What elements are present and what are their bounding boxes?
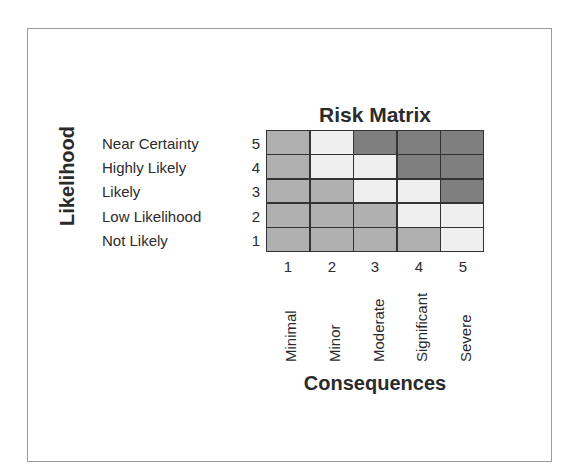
matrix-cell-medium <box>441 228 483 251</box>
matrix-cell-high <box>441 180 483 203</box>
matrix-cell-low <box>267 155 309 178</box>
matrix-cell-low <box>311 180 353 203</box>
matrix-cell-low <box>267 131 309 154</box>
row-label-1: Not Likely <box>102 232 168 249</box>
matrix-cell-medium <box>441 204 483 227</box>
col-label-moderate: Moderate <box>370 299 387 362</box>
matrix-cell-low <box>267 204 309 227</box>
matrix-cell-high <box>441 131 483 154</box>
col-number-4: 4 <box>409 258 429 275</box>
matrix-cell-medium <box>398 180 440 203</box>
row-number-2: 2 <box>250 208 262 225</box>
matrix-cell-low <box>311 228 353 251</box>
row-number-3: 3 <box>250 183 262 200</box>
row-label-3: Likely <box>102 183 140 200</box>
matrix-cell-low <box>267 180 309 203</box>
matrix-cell-low <box>398 228 440 251</box>
row-label-2: Low Likelihood <box>102 208 201 225</box>
matrix-cell-low <box>267 228 309 251</box>
col-number-5: 5 <box>453 258 473 275</box>
y-axis-label: Likelihood <box>56 116 79 236</box>
row-number-5: 5 <box>250 135 262 152</box>
risk-matrix-grid <box>266 130 484 252</box>
matrix-cell-high <box>398 155 440 178</box>
x-axis-label: Consequences <box>266 372 484 395</box>
matrix-cell-high <box>354 131 396 154</box>
col-number-2: 2 <box>322 258 342 275</box>
matrix-cell-medium <box>398 204 440 227</box>
col-number-1: 1 <box>278 258 298 275</box>
row-label-4: Highly Likely <box>102 159 186 176</box>
matrix-cell-low <box>354 204 396 227</box>
matrix-cell-low <box>311 204 353 227</box>
col-number-3: 3 <box>365 258 385 275</box>
matrix-cell-low <box>354 228 396 251</box>
matrix-cell-medium <box>354 155 396 178</box>
matrix-cell-medium <box>311 131 353 154</box>
matrix-cell-medium <box>354 180 396 203</box>
matrix-cell-high <box>441 155 483 178</box>
col-label-severe: Severe <box>457 314 474 362</box>
matrix-cell-medium <box>311 155 353 178</box>
row-number-4: 4 <box>250 159 262 176</box>
col-label-minor: Minor <box>326 324 343 362</box>
row-label-5: Near Certainty <box>102 135 199 152</box>
col-label-significant: Significant <box>413 293 430 362</box>
row-number-1: 1 <box>250 232 262 249</box>
col-label-minimal: Minimal <box>282 310 299 362</box>
matrix-title: Risk Matrix <box>266 103 484 127</box>
matrix-cell-high <box>398 131 440 154</box>
